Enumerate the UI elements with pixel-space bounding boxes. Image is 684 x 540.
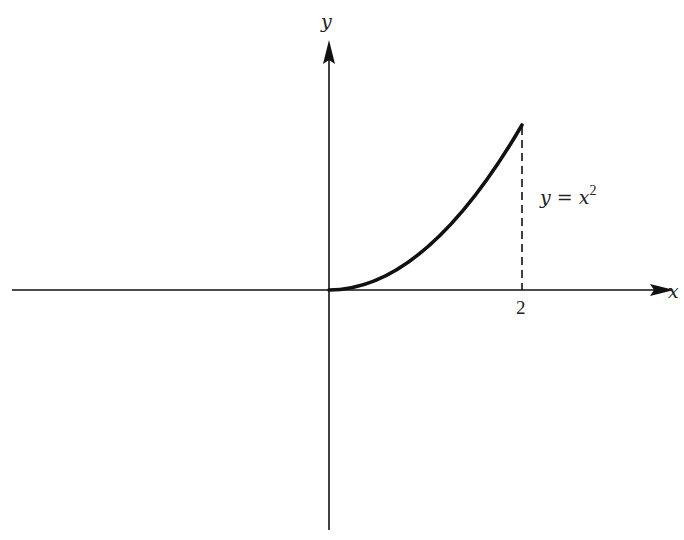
function-label-base: y = x [539, 186, 590, 208]
parabola-curve [329, 125, 522, 290]
x-tick-label-2: 2 [516, 297, 526, 318]
function-label: y = x2 [539, 183, 596, 208]
y-axis-label: y [320, 10, 332, 32]
plot-canvas: y x 2 y = x2 [0, 0, 684, 540]
function-label-exponent: 2 [589, 183, 596, 198]
x-axis-label: x [668, 280, 679, 302]
